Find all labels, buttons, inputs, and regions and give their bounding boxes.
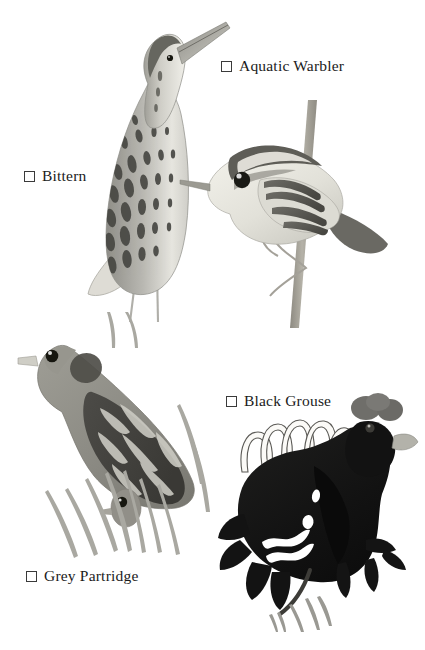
checklist-label-bittern: Bittern [42, 167, 86, 185]
checklist-label-aquatic-warbler: Aquatic Warbler [239, 57, 344, 75]
checklist-label-black-grouse: Black Grouse [244, 392, 331, 410]
partridge-eye-highlight [48, 351, 52, 355]
warbler-legs [262, 236, 306, 296]
grouse-eye-highlight [368, 425, 371, 428]
grouse-eye [365, 423, 374, 432]
partridge-eye [46, 350, 59, 363]
checkbox-icon-grey-partridge[interactable] [26, 571, 37, 582]
checklist-label-grey-partridge: Grey Partridge [44, 567, 138, 585]
checklist-item-black-grouse[interactable]: Black Grouse [226, 392, 331, 410]
bittern-eye-highlight [168, 56, 170, 58]
checklist-item-grey-partridge[interactable]: Grey Partridge [26, 567, 138, 585]
checklist-item-aquatic-warbler[interactable]: Aquatic Warbler [221, 57, 344, 75]
warbler-eye [234, 172, 250, 188]
grey-partridge-illustration [14, 312, 224, 562]
checkbox-icon-black-grouse[interactable] [226, 396, 237, 407]
bittern-eye [167, 55, 173, 61]
checkbox-icon-aquatic-warbler[interactable] [221, 61, 232, 72]
aquatic-warbler-illustration [194, 118, 394, 308]
black-grouse-illustration [218, 392, 423, 632]
grass-blades-upper [107, 312, 138, 348]
grouse-wattle [351, 393, 403, 421]
checklist-item-bittern[interactable]: Bittern [24, 167, 86, 185]
bird-checklist-page: Bittern Aquatic Warbler Black Grouse Gre… [0, 0, 425, 650]
warbler-eye-highlight [236, 173, 241, 178]
grouse-beak [392, 434, 418, 450]
partridge-bill [18, 356, 38, 366]
checkbox-icon-bittern[interactable] [24, 171, 35, 182]
